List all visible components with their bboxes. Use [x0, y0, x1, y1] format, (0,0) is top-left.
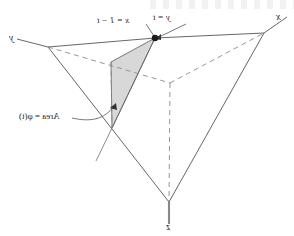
cut-point-dot	[152, 35, 158, 41]
hidden-edge-z	[169, 83, 170, 202]
annotation-y-equation: y = t	[153, 13, 170, 22]
scan-artifact-top	[150, 0, 294, 9]
hidden-edge-y	[48, 47, 170, 83]
leader-x-equation	[146, 24, 154, 36]
leader-area	[72, 106, 114, 120]
edge-top-left	[48, 38, 155, 47]
edge-lower-left-continuation	[96, 128, 112, 161]
annotation-x-equation: x = 1 − t	[97, 16, 129, 25]
axis-label-z: z	[166, 222, 170, 232]
edge-left-front	[48, 47, 169, 202]
leader-y-equation	[157, 24, 186, 38]
axis-label-x: x	[276, 12, 280, 22]
edge-top-right	[155, 33, 264, 38]
annotation-area-function: Area = φ(t)	[19, 112, 60, 121]
edge-right-front	[169, 33, 264, 202]
axis-label-y: y	[9, 33, 13, 43]
axis-ray-y	[17, 39, 48, 47]
